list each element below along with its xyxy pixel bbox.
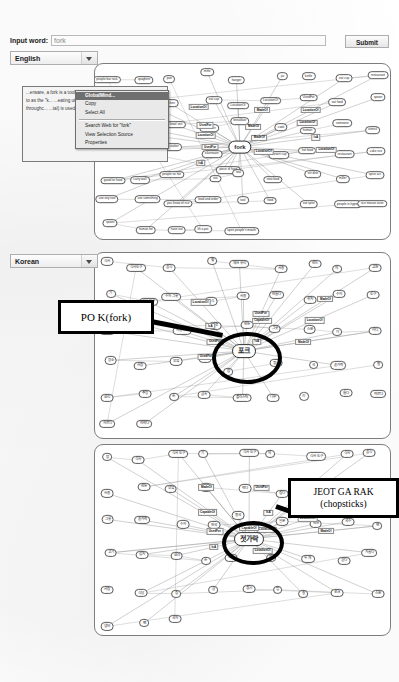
graph-node[interactable]: 사용 (237, 292, 250, 300)
graph-node[interactable]: human be (135, 226, 156, 234)
graph-node[interactable]: food (264, 197, 277, 205)
graph-node[interactable]: 의 (265, 449, 275, 457)
graph-node[interactable]: food and order (195, 196, 222, 204)
graph-node[interactable]: 사용 (101, 489, 114, 497)
graph-node[interactable]: 상 (208, 586, 218, 594)
graph-node[interactable]: 플라스틱 (233, 394, 252, 402)
graph-node[interactable]: 자르다 (99, 420, 115, 428)
menu-item-select-all[interactable]: Select All (76, 109, 168, 117)
graph-node[interactable]: open people's mouth (224, 227, 259, 235)
graph-node[interactable]: hot food (298, 147, 316, 155)
graph-node[interactable]: pan (163, 75, 175, 83)
graph-node[interactable]: 만든 (138, 483, 151, 491)
graph-node[interactable]: eat food (328, 98, 346, 106)
graph-node[interactable]: 그릇 (101, 515, 114, 523)
graph-node[interactable]: eat (210, 175, 221, 183)
graph-node[interactable]: 식사 도구 (169, 449, 189, 457)
graph-node[interactable]: 국 (309, 361, 319, 369)
graph-node[interactable]: 중국 (232, 511, 245, 519)
graph-node[interactable]: rice mouse oven (357, 200, 386, 208)
graph-node[interactable]: 식사 (341, 450, 354, 458)
graph-relation-label[interactable]: IsA (264, 510, 273, 516)
graph-node[interactable]: 사람 (101, 586, 114, 594)
graph-node[interactable]: 식당 (135, 589, 148, 597)
context-menu-overlay[interactable]: ...erware, a fork is a tool consisting o… (22, 86, 168, 162)
graph-node[interactable]: someone (333, 120, 353, 128)
graph-node[interactable]: 의 (332, 265, 342, 273)
graph-node[interactable]: 만들다 (269, 291, 285, 299)
graph-node[interactable]: cook (274, 124, 287, 132)
graph-relation-label[interactable]: LocationOf (195, 132, 216, 138)
graph-node[interactable]: 수저 (333, 290, 346, 298)
graph-relation-label[interactable]: MadeOf (318, 528, 334, 534)
graph-node[interactable]: 기 (106, 290, 116, 298)
graph-node[interactable]: kettle (301, 73, 315, 81)
language-select-korean[interactable]: Korean (10, 254, 98, 268)
graph-node[interactable]: 금속 (198, 390, 211, 398)
graph-node[interactable]: 나무 (267, 393, 280, 401)
language-select-english[interactable]: English (10, 51, 98, 65)
graph-relation-label[interactable]: LocationOf (188, 104, 209, 110)
graph-node[interactable]: 쇠 (299, 392, 309, 400)
graph-node[interactable]: 요리 (170, 551, 183, 559)
graph-node[interactable]: eat spite (300, 200, 318, 208)
graph-node[interactable]: 수저 (176, 520, 189, 528)
graph-node[interactable]: 냄비 (101, 622, 114, 630)
graph-node[interactable]: 식사 (132, 456, 145, 464)
graph-node[interactable]: 부엌 (164, 485, 177, 493)
graph-node[interactable]: 식사 도구 (240, 449, 260, 457)
graph-node[interactable]: restaurant (334, 151, 355, 159)
graph-center-node[interactable]: fork (228, 141, 251, 154)
graph-relation-label[interactable]: UsedFor (202, 144, 219, 150)
graph-relation-label[interactable]: UsedFor (252, 311, 269, 317)
graph-node[interactable]: 사용 (275, 265, 288, 273)
graph-node[interactable]: 교환 (369, 263, 382, 271)
graph-node[interactable]: 포크 (331, 589, 344, 597)
graph-relation-label[interactable]: LocationOf (253, 149, 274, 155)
graph-node[interactable]: 음식 (163, 264, 176, 272)
graph-node[interactable]: 국수 (341, 518, 354, 526)
graph-node[interactable]: 스푼 (372, 590, 385, 598)
graph-node[interactable]: 국자 (168, 615, 181, 623)
graph-node[interactable]: 식사 도구 (126, 264, 146, 272)
graph-node[interactable]: hanger (228, 77, 244, 85)
graph-node[interactable]: 주방 (139, 389, 152, 397)
graph-node[interactable]: 김치 (136, 550, 149, 558)
graph-node[interactable]: 요리 (101, 394, 114, 402)
graph-node[interactable]: new food (263, 176, 282, 184)
graph-relation-label[interactable]: UsedFor (197, 122, 214, 128)
graph-relation-label[interactable]: LocationOf (300, 107, 321, 113)
graph-node[interactable]: restaurant (368, 71, 389, 79)
menu-item-copy[interactable]: Copy (76, 100, 168, 108)
graph-node[interactable]: 찌르다 (370, 390, 386, 398)
graph-node[interactable]: 접시 (243, 585, 256, 593)
graph-relation-label[interactable]: IsA (311, 134, 320, 140)
graph-node[interactable]: 면 (373, 522, 383, 530)
chevron-down-icon[interactable] (81, 255, 97, 267)
graph-node[interactable]: 칼 (373, 361, 383, 369)
graph-relation-label[interactable]: CapableOf (198, 509, 218, 515)
graph-relation-label[interactable]: LocationOf (316, 147, 337, 153)
graph-node[interactable]: 수저 그릇 (161, 293, 181, 301)
graph-relation-label[interactable]: UsedFor (253, 485, 270, 491)
graph-node[interactable]: 부엌 (170, 357, 183, 365)
graph-node[interactable]: carry wall (130, 176, 150, 184)
graph-node[interactable]: 쩢 (207, 257, 217, 265)
graph-relation-label[interactable]: LocationOf (304, 317, 325, 323)
graph-node[interactable]: spaghetti (134, 76, 153, 84)
graph-node[interactable]: 숟가락 (331, 361, 347, 369)
submit-button[interactable]: Submit (345, 35, 389, 48)
graph-node[interactable]: 그릇 (268, 325, 281, 333)
graph-node[interactable]: eat cup (205, 96, 222, 104)
graph-node[interactable]: miller (336, 175, 350, 183)
graph-node[interactable]: 채쓰 유리 (230, 260, 250, 268)
graph-node[interactable]: 팬 (139, 619, 149, 627)
graph-node[interactable]: 칼 (298, 590, 308, 598)
graph-node[interactable]: good for food (100, 177, 125, 185)
graph-node[interactable]: 장소 (104, 356, 117, 364)
graph-node[interactable]: cake rice (366, 147, 385, 155)
menu-item-properties[interactable]: Properties (76, 139, 168, 147)
graph-node[interactable]: 먹다 (239, 484, 252, 492)
graph-node[interactable]: 손 (169, 392, 179, 400)
graph-node[interactable]: use something (134, 195, 161, 203)
